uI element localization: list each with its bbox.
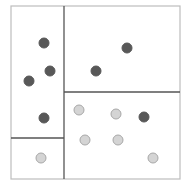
partition-diagram [0,0,190,188]
light-point [148,153,158,163]
dark-point [45,66,55,76]
light-point [80,135,90,145]
light-point [113,135,123,145]
dark-point [39,113,49,123]
data-points [24,38,158,163]
dark-point [139,112,149,122]
dark-point [91,66,101,76]
dark-point [39,38,49,48]
light-point [111,109,121,119]
dark-point [122,43,132,53]
light-point [36,153,46,163]
light-point [74,105,84,115]
dark-point [24,76,34,86]
